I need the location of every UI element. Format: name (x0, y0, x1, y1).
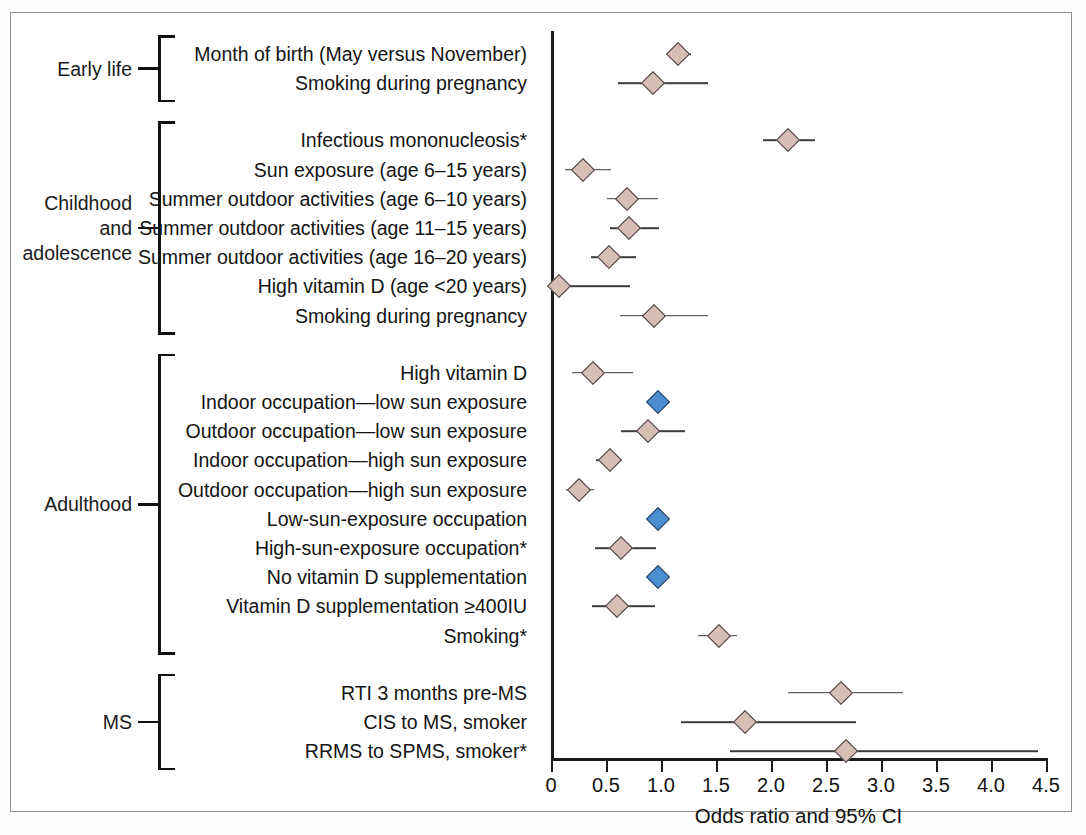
x-tick-mark (716, 761, 718, 772)
row-label: RTI 3 months pre-MS (341, 681, 527, 704)
data-point-marker (615, 187, 639, 211)
data-point-marker (646, 390, 670, 414)
group-label: Early life (57, 56, 132, 81)
row-label: Vitamin D supplementation ≥400IU (226, 595, 527, 618)
x-tick-mark (936, 761, 938, 772)
confidence-interval-line (607, 198, 658, 200)
x-tick-mark (771, 761, 773, 772)
confidence-interval-line (565, 169, 611, 171)
row-label: CIS to MS, smoker (363, 711, 527, 734)
data-point-marker (598, 448, 622, 472)
data-point-marker (641, 71, 665, 95)
confidence-interval-line (595, 547, 656, 549)
row-label: Outdoor occupation—high sun exposure (178, 478, 527, 501)
row-label: High vitamin D (age <20 years) (258, 275, 527, 298)
plot-area: 00.51.01.52.02.53.03.54.04.5 (11, 13, 1071, 811)
confidence-interval-line (592, 606, 656, 608)
x-tick-label: 2.0 (757, 774, 785, 797)
row-label: Summer outdoor activities (age 6–10 year… (149, 187, 527, 210)
confidence-interval-line (763, 140, 815, 142)
confidence-interval-line (572, 372, 634, 374)
data-point-marker (581, 361, 605, 385)
confidence-interval-line (618, 82, 708, 84)
x-tick-mark (661, 761, 663, 772)
x-tick-label: 3.5 (922, 774, 950, 797)
confidence-interval-line (566, 489, 594, 491)
x-axis-title: Odds ratio and 95% CI (551, 804, 1046, 828)
data-point-marker (646, 507, 670, 531)
confidence-interval-line (591, 256, 636, 258)
x-tick-mark (826, 761, 828, 772)
x-tick-label: 2.5 (812, 774, 840, 797)
data-point-marker (547, 274, 571, 298)
row-label: Outdoor occupation—low sun exposure (186, 420, 527, 443)
row-label: Low-sun-exposure occupation (267, 507, 527, 530)
data-point-marker (733, 710, 757, 734)
data-point-marker (617, 216, 641, 240)
row-label: Smoking during pregnancy (295, 304, 527, 327)
x-tick-label: 0.5 (592, 774, 620, 797)
group-label: Adulthood (44, 492, 132, 517)
confidence-interval-line (551, 286, 630, 288)
confidence-interval-line (620, 315, 708, 317)
x-tick-label: 3.0 (867, 774, 895, 797)
row-label: Indoor occupation—low sun exposure (201, 391, 527, 414)
x-tick-mark (991, 761, 993, 772)
row-label: Summer outdoor activities (age 16–20 yea… (138, 246, 527, 269)
x-tick-mark (881, 761, 883, 772)
forest-plot-figure: Early lifeChildhood and adolescenceAdult… (0, 0, 1086, 835)
row-label: Month of birth (May versus November) (194, 43, 527, 66)
confidence-interval-line (610, 227, 658, 229)
data-point-marker (829, 681, 853, 705)
x-tick-mark (606, 761, 608, 772)
row-label: Summer outdoor activities (age 11–15 yea… (139, 217, 527, 240)
row-label: High vitamin D (400, 361, 527, 384)
data-point-marker (636, 419, 660, 443)
confidence-interval-line (621, 430, 685, 432)
x-tick-mark (1046, 761, 1048, 772)
data-point-marker (566, 478, 590, 502)
x-axis-line (551, 758, 1048, 761)
x-tick-label: 1.0 (647, 774, 675, 797)
row-label: RRMS to SPMS, smoker* (305, 740, 527, 763)
row-label: High-sun-exposure occupation* (255, 537, 527, 560)
data-point-marker (775, 128, 799, 152)
data-point-marker (609, 536, 633, 560)
confidence-interval-line (596, 460, 622, 462)
figure-frame: Early lifeChildhood and adolescenceAdult… (10, 12, 1072, 812)
data-point-marker (571, 158, 595, 182)
x-tick-mark (551, 761, 553, 772)
row-label: Infectious mononucleosis* (300, 129, 527, 152)
x-tick-label: 4.5 (1032, 774, 1060, 797)
confidence-interval-line (730, 750, 1038, 752)
row-label: Indoor occupation—high sun exposure (193, 449, 527, 472)
x-tick-label: 0 (545, 774, 556, 797)
row-label: Smoking during pregnancy (295, 72, 527, 95)
data-point-marker (665, 42, 689, 66)
row-label: No vitamin D supplementation (267, 566, 527, 589)
data-point-marker (597, 245, 621, 269)
group-label: MS (103, 710, 132, 735)
data-point-marker (707, 624, 731, 648)
data-point-marker (834, 739, 858, 763)
data-point-marker (642, 304, 666, 328)
group-label: Childhood and adolescence (23, 191, 133, 266)
x-tick-label: 4.0 (977, 774, 1005, 797)
confidence-interval-line (681, 721, 856, 723)
x-tick-label: 1.5 (702, 774, 730, 797)
y-axis-line (551, 31, 554, 758)
row-label: Sun exposure (age 6–15 years) (254, 158, 527, 181)
data-point-marker (646, 565, 670, 589)
data-point-marker (605, 594, 629, 618)
row-label: Smoking* (444, 624, 527, 647)
confidence-interval-line (698, 635, 737, 637)
confidence-interval-line (667, 53, 691, 55)
confidence-interval-line (788, 692, 904, 694)
